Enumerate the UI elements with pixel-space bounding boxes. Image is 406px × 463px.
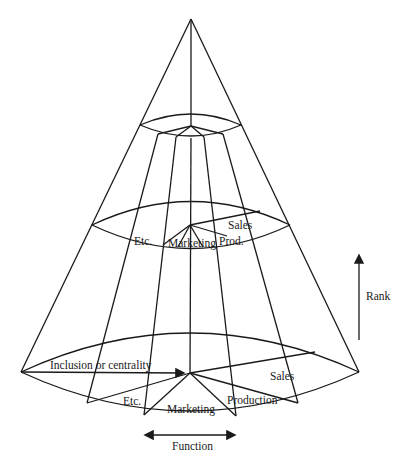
base-marketing-label: Marketing	[167, 403, 215, 416]
function-label: Function	[172, 440, 213, 452]
rank-label: Rank	[366, 290, 391, 302]
cone-diagram: Rank Function Inclusion or centrality Et…	[0, 0, 406, 463]
middle-sales-label: Sales	[228, 219, 253, 231]
middle-etc-label: Etc.	[134, 235, 152, 247]
base-sales-label: Sales	[270, 370, 295, 382]
middle-marketing-label: Marketing	[168, 237, 216, 250]
middle-prod-label: Prod.	[219, 235, 244, 247]
inclusion-label: Inclusion or centrality	[50, 359, 152, 372]
base-production-label: Production	[227, 394, 278, 406]
base-etc-label: Etc.	[123, 395, 141, 407]
